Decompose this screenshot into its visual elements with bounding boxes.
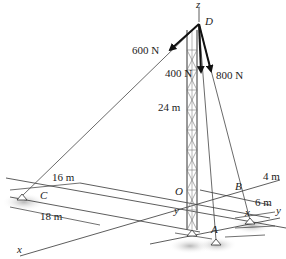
dim-4m-label: 4 m [263, 170, 280, 182]
tower [187, 30, 197, 230]
force-600-label: 600 N [132, 44, 159, 56]
point-o-label: O [175, 185, 183, 197]
force-600-arrow [170, 24, 199, 50]
point-b-label: B [235, 180, 242, 192]
force-400-label: 400 N [165, 67, 192, 79]
tower-height-label: 24 m [158, 101, 181, 113]
cables [22, 24, 250, 240]
dim-a-y-label: y [173, 204, 179, 216]
point-a-label: A [210, 223, 218, 235]
x-axis-label: x [16, 243, 22, 255]
dim-a-x-label: x [244, 206, 250, 218]
tower-guy-wire-diagram: z D 600 N 400 N 800 N 24 m 16 m C 18 m O… [0, 0, 286, 259]
force-vectors [170, 24, 211, 72]
y-axis-label: y [275, 204, 281, 216]
dim-16m-label: 16 m [52, 171, 75, 183]
dim-6m-label: 6 m [255, 196, 272, 208]
dim-18m-label: 18 m [40, 210, 63, 222]
point-d-label: D [204, 15, 213, 27]
force-800-label: 800 N [216, 69, 243, 81]
point-c-label: C [40, 189, 48, 201]
z-axis-label: z [195, 0, 201, 10]
